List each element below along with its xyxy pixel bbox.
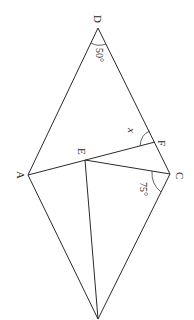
label-E: E xyxy=(76,148,88,155)
angle-label-C: 75° xyxy=(138,182,149,196)
angle-arc-C xyxy=(152,171,161,192)
angle-label-D: 50° xyxy=(94,48,105,62)
label-A: A xyxy=(15,171,27,179)
geometry-diagram: D A E F C 50° x 75° xyxy=(0,0,194,320)
segment-AF xyxy=(28,142,155,175)
segment-EC xyxy=(85,160,170,174)
label-C: C xyxy=(174,172,186,179)
label-D: D xyxy=(92,15,104,23)
segment-CB xyxy=(98,174,170,319)
angle-arc-D xyxy=(91,43,106,45)
label-F: F xyxy=(156,140,168,146)
segment-DC xyxy=(98,28,170,174)
angle-label-F: x xyxy=(126,127,138,133)
